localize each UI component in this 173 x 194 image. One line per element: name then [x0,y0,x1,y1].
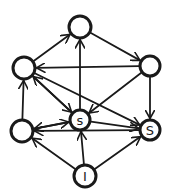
edge-bottom-i-to-right-s [95,137,141,170]
edges-layer [22,33,150,169]
node-label: S [146,123,154,138]
edge-center-s-to-right-s [91,122,139,129]
node-lower-left [11,120,33,142]
edge-center-s-to-lower-left [34,122,69,129]
node-circle [13,57,35,79]
node-center-s: s [70,110,90,130]
node-bottom-i: I [74,165,96,187]
directed-graph-diagram: sSI [0,0,173,194]
node-top [69,16,91,38]
node-circle [140,56,160,76]
node-circle [11,120,33,142]
edge-right-s-to-lower-left [35,130,140,131]
edge-lower-left-to-upper-left [22,81,23,120]
edge-upper-left-to-top [34,34,70,61]
node-right-s: S [140,120,160,140]
edge-upper-right-to-center-s [89,73,141,113]
node-circle [69,16,91,38]
edge-top-to-upper-right [91,33,141,61]
edge-bottom-i-to-lower-left [32,138,75,169]
node-upper-right [140,56,160,76]
node-label: I [83,169,87,184]
edge-bottom-i-to-center-s [81,132,84,165]
edge-upper-right-to-upper-left [37,66,140,68]
nodes-layer: sSI [11,16,160,187]
node-upper-left [13,57,35,79]
node-label: s [77,113,84,128]
